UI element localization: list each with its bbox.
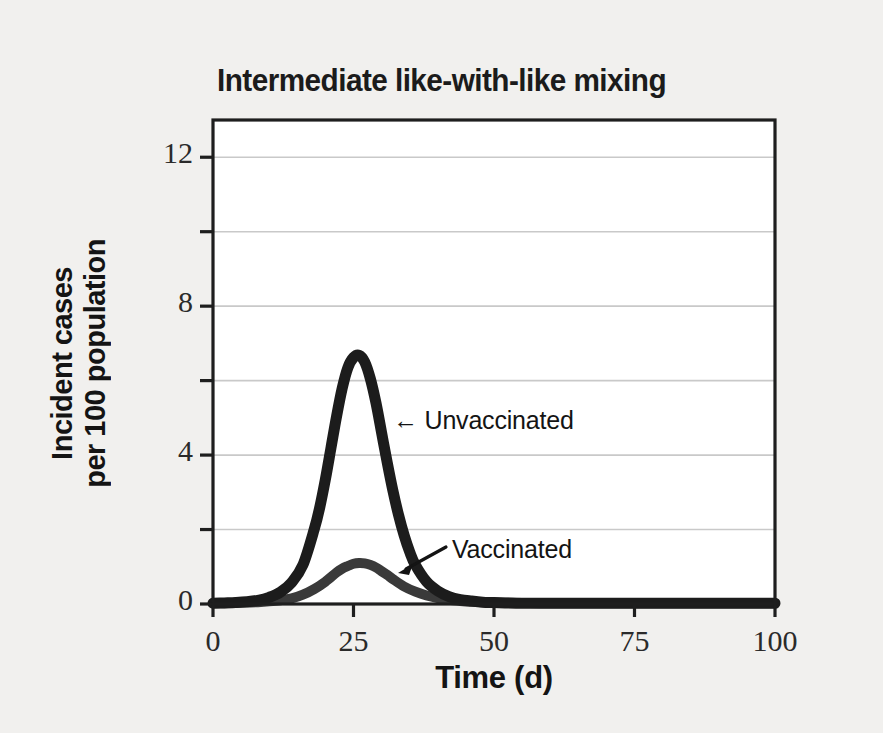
x-tick-label: 100: [725, 624, 825, 658]
x-tick-label: 75: [585, 624, 685, 658]
y-tick-label: 12: [103, 136, 193, 170]
annotation-unvaccinated: ← Unvaccinated: [393, 406, 574, 435]
annotation-vaccinated: Vaccinated: [452, 535, 572, 564]
y-tick-label: 8: [103, 285, 193, 319]
x-tick-label: 0: [163, 624, 263, 658]
x-tick-label: 25: [304, 624, 404, 658]
y-tick-label: 0: [103, 583, 193, 617]
plot-background: [213, 120, 775, 604]
y-tick-label: 4: [103, 434, 193, 468]
x-tick-label: 50: [444, 624, 544, 658]
figure-container: Intermediate like-with-like mixing Incid…: [0, 0, 883, 733]
